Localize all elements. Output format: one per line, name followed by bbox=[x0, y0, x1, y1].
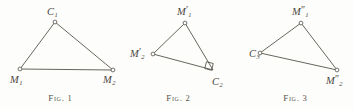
vertex-label-bottom-right: C2 bbox=[212, 74, 223, 88]
vertex-marker-apex bbox=[299, 21, 303, 25]
figure-3: M″1 C3 M″2 Fig. 3 bbox=[236, 0, 354, 109]
figure-2-caption: Fig. 2 bbox=[120, 93, 236, 103]
triangle-outline bbox=[260, 23, 337, 70]
vertex-label-apex: M″1 bbox=[292, 4, 309, 18]
vertex-marker-left bbox=[151, 52, 155, 56]
vertex-label-bottom-left: M1 bbox=[10, 72, 23, 86]
triangle-outline bbox=[20, 22, 113, 70]
vertex-marker-bottom-left bbox=[18, 67, 22, 71]
vertex-label-left: M′2 bbox=[130, 46, 145, 60]
figure-1: C1 M1 M2 Fig. 1 bbox=[0, 0, 120, 109]
vertex-label-left: C3 bbox=[249, 46, 260, 60]
vertex-marker-apex bbox=[183, 21, 187, 25]
figure-2: M′1 M′2 C2 Fig. 2 bbox=[120, 0, 236, 109]
figure-plate: C1 M1 M2 Fig. 1 M′1 M′2 C2 Fig. 2 bbox=[0, 0, 354, 109]
vertex-label-bottom-right: M2 bbox=[103, 72, 116, 86]
vertex-label-apex: M′1 bbox=[177, 4, 192, 18]
vertex-label-apex: C1 bbox=[47, 4, 58, 18]
triangle-outline bbox=[153, 23, 213, 70]
figure-1-caption: Fig. 1 bbox=[0, 93, 120, 103]
vertex-marker-bottom-right bbox=[335, 68, 339, 72]
vertex-label-bottom-right: M″2 bbox=[326, 73, 343, 87]
figure-3-caption: Fig. 3 bbox=[236, 93, 354, 103]
vertex-marker-apex bbox=[53, 20, 57, 24]
